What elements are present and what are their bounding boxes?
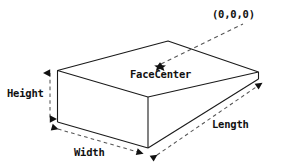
box-wireframe [58, 41, 259, 148]
face-center-label: FaceCenter [130, 68, 191, 80]
origin-coordinate-label: (0,0,0) [212, 8, 255, 20]
origin-leader-line [161, 24, 243, 64]
box-dimension-diagram: (0,0,0) FaceCenter Height Width Length [0, 0, 287, 168]
width-label: Width [74, 146, 105, 158]
box-bottom-right-edge [148, 79, 259, 148]
height-label: Height [7, 87, 44, 99]
length-label: Length [212, 118, 249, 130]
box-bottom-left-edge [58, 122, 149, 148]
diagram-canvas [0, 0, 287, 168]
